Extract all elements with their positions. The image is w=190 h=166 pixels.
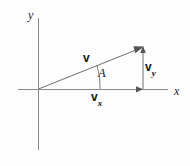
vector-diagram-figure: y x v vx vy A (0, 0, 190, 166)
x-component-label-subscript: x (98, 98, 103, 108)
resultant-vector-label: v (83, 52, 90, 64)
y-component-label: vy (145, 61, 156, 76)
x-component-arrowhead (136, 86, 143, 92)
x-component-label-base: v (91, 90, 98, 104)
y-component-label-base: v (145, 60, 152, 74)
y-axis-label: y (28, 9, 33, 21)
angle-label: A (98, 67, 106, 80)
x-axis-label: x (174, 85, 179, 97)
vector-diagram-canvas (0, 0, 190, 166)
y-component-label-subscript: y (152, 68, 156, 78)
x-component-label: vx (91, 91, 102, 106)
